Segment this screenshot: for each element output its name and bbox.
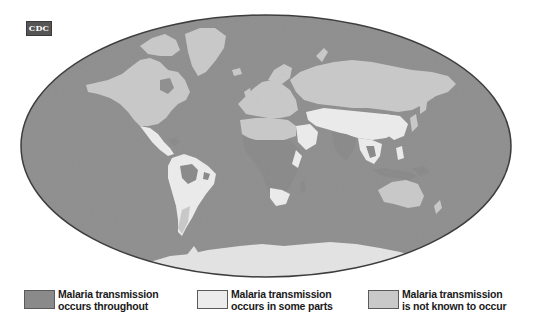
legend-item-not-known: Malaria transmission is not known to occ… bbox=[368, 288, 506, 312]
map-legend: Malaria transmission occurs throughout M… bbox=[0, 286, 533, 327]
legend-item-throughout: Malaria transmission occurs throughout bbox=[24, 288, 158, 312]
legend-line2: occurs throughout bbox=[58, 300, 158, 312]
legend-line1: Malaria transmission bbox=[231, 288, 333, 300]
world-malaria-map bbox=[0, 0, 533, 285]
swatch-not-known bbox=[368, 290, 399, 309]
swatch-some-parts bbox=[197, 290, 228, 309]
legend-label-not-known: Malaria transmission is not known to occ… bbox=[402, 288, 506, 312]
legend-line2: is not known to occur bbox=[402, 300, 506, 312]
legend-line1: Malaria transmission bbox=[402, 288, 506, 300]
swatch-throughout bbox=[24, 290, 55, 309]
legend-line2: occurs in some parts bbox=[231, 300, 333, 312]
legend-label-throughout: Malaria transmission occurs throughout bbox=[58, 288, 158, 312]
legend-line1: Malaria transmission bbox=[58, 288, 158, 300]
legend-item-some-parts: Malaria transmission occurs in some part… bbox=[197, 288, 333, 312]
legend-label-some-parts: Malaria transmission occurs in some part… bbox=[231, 288, 333, 312]
